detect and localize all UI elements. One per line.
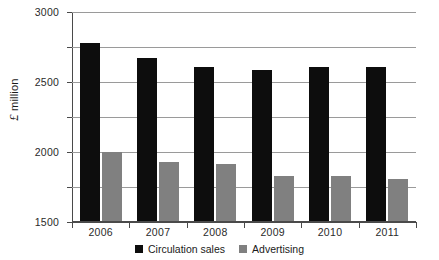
bar-2007-circulation-sales	[137, 58, 157, 222]
y-tick-label: 2500	[35, 76, 59, 88]
y-axis-unit-label	[8, 111, 20, 114]
x-axis-line	[72, 221, 416, 222]
bars-layer	[72, 12, 416, 222]
y-axis-unit-text: million	[8, 78, 20, 111]
plot-area: 050010001500200025003000	[72, 12, 416, 222]
chart-legend: Circulation salesAdvertising	[0, 243, 439, 255]
y-tick-label: 3000	[35, 6, 59, 18]
legend-swatch-icon	[135, 245, 143, 253]
bar-2011-circulation-sales	[366, 67, 386, 222]
legend-label: Advertising	[252, 243, 304, 255]
x-axis-label-2006: 2006	[88, 226, 113, 238]
bar-group-2009	[252, 12, 294, 222]
y-axis-title: £ million	[7, 55, 22, 145]
x-axis-label-2010: 2010	[318, 226, 343, 238]
x-tick-mark	[416, 222, 417, 228]
y-tick-label: 1500	[35, 216, 59, 228]
bar-2006-circulation-sales	[80, 43, 100, 222]
bar-2009-circulation-sales	[252, 70, 272, 222]
x-axis-labels: 200620072008200920102011	[72, 226, 416, 242]
legend-item-circulation-sales[interactable]: Circulation sales	[135, 243, 225, 255]
bar-2007-advertising	[159, 162, 179, 222]
bar-group-2006	[80, 12, 122, 222]
x-axis-label-2007: 2007	[146, 226, 171, 238]
x-axis-label-2008: 2008	[203, 226, 228, 238]
bar-2010-advertising	[331, 176, 351, 222]
bar-group-2008	[194, 12, 236, 222]
bar-group-2010	[309, 12, 351, 222]
bar-2009-advertising	[274, 176, 294, 222]
bar-group-2007	[137, 12, 179, 222]
bar-2008-circulation-sales	[194, 67, 214, 222]
legend-swatch-icon	[239, 245, 247, 253]
bar-2011-advertising	[388, 179, 408, 222]
y-axis-currency-symbol: £	[7, 114, 21, 120]
bar-2008-advertising	[216, 164, 236, 222]
bar-chart: £ million 050010001500200025003000 20062…	[0, 0, 439, 260]
bar-2010-circulation-sales	[309, 67, 329, 222]
x-axis-label-2009: 2009	[260, 226, 285, 238]
y-tick-label: 2000	[35, 146, 59, 158]
x-axis-label-2011: 2011	[375, 226, 399, 238]
legend-label: Circulation sales	[148, 243, 225, 255]
bar-group-2011	[366, 12, 408, 222]
bar-2006-advertising	[102, 152, 122, 222]
legend-item-advertising[interactable]: Advertising	[239, 243, 304, 255]
